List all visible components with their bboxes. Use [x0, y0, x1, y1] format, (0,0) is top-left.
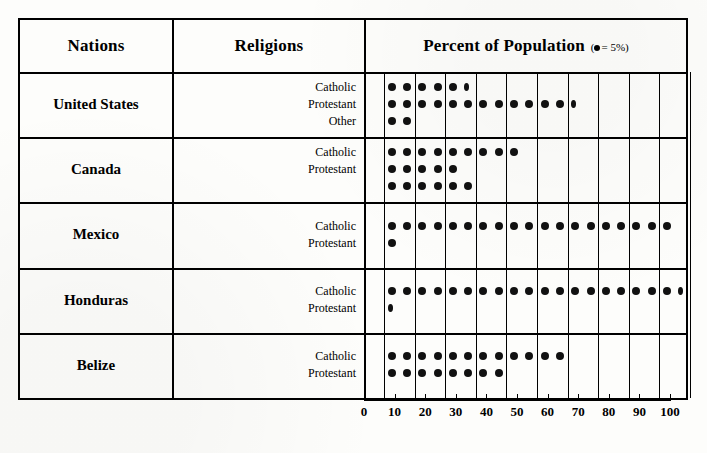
- unit-dot: [525, 222, 533, 230]
- unit-dot: [525, 287, 533, 295]
- unit-dot: [632, 222, 640, 230]
- dot-row: [366, 79, 686, 96]
- unit-dot: [418, 100, 426, 108]
- unit-dot: [403, 148, 411, 156]
- unit-dot: [541, 222, 549, 230]
- x-axis-tick-label: 30: [449, 404, 462, 420]
- x-axis-tick-label: 20: [419, 404, 432, 420]
- x-axis-tick: [578, 394, 579, 401]
- dot-row: [366, 144, 686, 161]
- unit-dot: [388, 117, 396, 125]
- gridline: [690, 72, 691, 398]
- x-axis-tick-label: 10: [388, 404, 401, 420]
- unit-dot: [434, 182, 442, 190]
- religion-cell: CatholicProtestant: [174, 333, 360, 398]
- dot-row: [366, 365, 686, 382]
- x-axis-tick: [670, 394, 671, 401]
- x-axis-tick: [609, 394, 610, 401]
- unit-dot: [418, 83, 426, 91]
- legend-value-text: = 5%): [601, 41, 628, 53]
- unit-dot: [479, 287, 487, 295]
- unit-dot: [571, 222, 579, 230]
- dot-row: [366, 113, 686, 130]
- unit-dot: [663, 222, 671, 230]
- unit-dot: [434, 352, 442, 360]
- unit-dot: [464, 352, 472, 360]
- religion-label: Other: [329, 113, 360, 130]
- unit-dot: [587, 287, 595, 295]
- unit-dot: [556, 352, 564, 360]
- religion-label: Catholic: [315, 79, 360, 96]
- dot-row: [366, 178, 686, 195]
- unit-dot: [479, 148, 487, 156]
- unit-dot: [388, 239, 396, 247]
- religion-label: Protestant: [308, 161, 360, 178]
- unit-dot: [388, 352, 396, 360]
- religion-pictograph-table: Nations Religions Percent of Population …: [18, 18, 688, 400]
- x-axis-tick-label: 90: [633, 404, 646, 420]
- dot-row: [366, 348, 686, 365]
- religion-label: Catholic: [315, 283, 360, 300]
- header-nations-label: Nations: [67, 36, 124, 56]
- x-axis-tick-label: 100: [660, 404, 680, 420]
- dot-row: [366, 283, 686, 300]
- header-cell-religions: Religions: [174, 20, 364, 72]
- unit-dot: [495, 100, 503, 108]
- unit-dot: [403, 287, 411, 295]
- header-cell-nations: Nations: [20, 20, 172, 72]
- unit-dot: [648, 222, 656, 230]
- nation-label: Canada: [71, 161, 121, 178]
- dot-rows-container: [366, 72, 686, 398]
- religion-cell: CatholicProtestant: [174, 268, 360, 333]
- unit-dot: [556, 287, 564, 295]
- x-axis-tick: [395, 394, 396, 401]
- unit-dot: [464, 100, 472, 108]
- unit-dot: [510, 148, 518, 156]
- unit-dot: [388, 148, 396, 156]
- unit-dot: [464, 182, 472, 190]
- unit-dot: [434, 165, 442, 173]
- x-axis-tick: [425, 394, 426, 401]
- dot-row: [366, 161, 686, 178]
- unit-dot: [388, 83, 396, 91]
- x-axis-tick: [364, 394, 365, 401]
- unit-dot: [663, 287, 671, 295]
- unit-dot: [403, 117, 411, 125]
- x-axis-tick: [456, 394, 457, 401]
- header-percent-label: Percent of Population: [423, 36, 585, 56]
- unit-dot: [449, 352, 457, 360]
- unit-dot: [388, 182, 396, 190]
- unit-dot: [418, 222, 426, 230]
- unit-dot: [449, 369, 457, 377]
- unit-dot: [418, 369, 426, 377]
- religion-label: Catholic: [315, 144, 360, 161]
- x-axis-tick: [639, 394, 640, 401]
- x-axis-tick: [486, 394, 487, 401]
- unit-dot: [495, 222, 503, 230]
- unit-dot: [388, 100, 396, 108]
- religion-label: Protestant: [308, 235, 360, 252]
- unit-dot: [464, 148, 472, 156]
- unit-dot: [403, 100, 411, 108]
- unit-dot: [449, 182, 457, 190]
- unit-dot: [479, 369, 487, 377]
- unit-dot: [388, 287, 396, 295]
- unit-dot: [418, 352, 426, 360]
- unit-dot: [510, 100, 518, 108]
- unit-dot: [648, 287, 656, 295]
- unit-dot: [449, 148, 457, 156]
- unit-dot: [449, 287, 457, 295]
- religion-cell: CatholicProtestant: [174, 202, 360, 267]
- unit-dot: [464, 369, 472, 377]
- unit-dot: [449, 222, 457, 230]
- unit-dot: [525, 100, 533, 108]
- unit-dot: [464, 83, 469, 91]
- x-axis-line: [364, 400, 670, 401]
- unit-dot: [388, 369, 396, 377]
- nation-cell: Mexico: [20, 202, 172, 267]
- unit-dot: [403, 182, 411, 190]
- unit-dot: [464, 222, 472, 230]
- unit-dot: [556, 222, 564, 230]
- unit-dot: [388, 165, 396, 173]
- unit-dot: [434, 148, 442, 156]
